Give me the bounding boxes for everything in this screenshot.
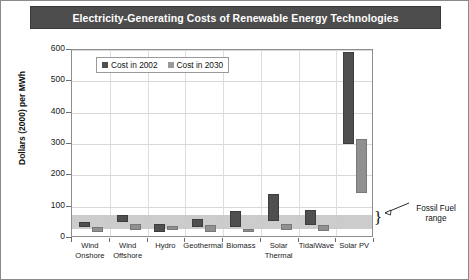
gridline-500 [72,81,372,82]
gridline-600 [72,50,372,51]
category-separator-1 [110,50,111,236]
y-tick-label-0: 0 [33,232,65,241]
bar-geothermal-2002 [192,219,203,227]
category-separator-2 [148,50,149,236]
legend-swatch-icon-cost_2030 [168,62,174,68]
legend-entry-cost_2002: Cost in 2002 [102,60,158,70]
x-tick-label-solar-pv: Solar PV [329,241,379,251]
legend-label-cost_2030: Cost in 2030 [177,60,224,70]
page-title: Electricity-Generating Costs of Renewabl… [72,12,398,24]
x-tick-label-line-1: Offshore [103,251,153,261]
y-tick-label-400: 400 [33,107,65,116]
legend-swatch-icon-cost_2002 [102,62,108,68]
y-axis-tick-labels: 0100200300400500600 [29,1,65,280]
x-tick-label-line-0: Solar PV [329,241,379,251]
legend-entry-cost_2030: Cost in 2030 [168,60,224,70]
y-tick-label-300: 300 [33,138,65,147]
category-separator-4 [223,50,224,236]
x-tick-label-line-1: Thermal [254,251,304,261]
bar-wind-offshore-2002 [117,215,128,222]
chart-title-banner: Electricity-Generating Costs of Renewabl… [30,6,441,29]
plot-area [71,49,373,237]
bar-biomass-2030 [243,229,254,233]
bar-solar-thermal-2030 [281,224,292,230]
bar-tidalwave-2030 [318,225,329,231]
category-separator-3 [185,50,186,236]
bar-tidalwave-2002 [305,210,316,226]
y-tick-label-500: 500 [33,75,65,84]
y-tick-label-100: 100 [33,201,65,210]
gridline-200 [72,175,372,176]
category-separator-6 [299,50,300,236]
bar-wind-onshore-2002 [79,222,90,227]
bar-biomass-2002 [230,211,241,227]
gridline-300 [72,144,372,145]
bar-hydro-2002 [154,224,165,232]
category-separator-5 [261,50,262,236]
bar-wind-onshore-2030 [92,227,103,232]
y-axis-title: Dollars (2000) per MWh [17,63,27,173]
chart-legend: Cost in 2002Cost in 2030 [96,57,229,73]
legend-label-cost_2002: Cost in 2002 [111,60,158,70]
bar-solar-thermal-2002 [268,194,279,221]
bar-geothermal-2030 [205,225,216,232]
category-separator-7 [336,50,337,236]
y-tick-label-600: 600 [33,44,65,53]
fossil-fuel-range-annotation: Fossil Fuel range [405,204,467,224]
bar-solar-pv-2002 [343,52,354,144]
gridline-100 [72,207,372,208]
y-tick-label-200: 200 [33,169,65,178]
bar-solar-pv-2030 [356,139,367,192]
x-axis-tick-labels: WindOnshoreWindOffshoreHydroGeothermalBi… [71,241,373,271]
bar-hydro-2030 [167,226,178,230]
chart-figure: Electricity-Generating Costs of Renewabl… [0,0,469,280]
bar-wind-offshore-2030 [130,224,141,230]
gridline-400 [72,113,372,114]
annotation-line-2: range [405,214,467,224]
annotation-line-1: Fossil Fuel [405,204,467,214]
